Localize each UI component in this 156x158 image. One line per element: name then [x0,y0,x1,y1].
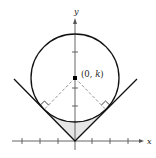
right-angle-left-icon [40,101,48,105]
center-point-label: (0, k) [81,69,104,79]
right-angle-right-icon [101,101,109,105]
y-axis-label: y [73,7,79,16]
circle-tangent-to-v-diagram: x y (0, k) [0,0,156,158]
x-axis-arrow-icon [139,139,144,143]
center-point [73,76,77,80]
x-axis: x [12,137,152,146]
y-axis-arrow-icon [73,18,77,24]
x-axis-label: x [147,137,152,146]
